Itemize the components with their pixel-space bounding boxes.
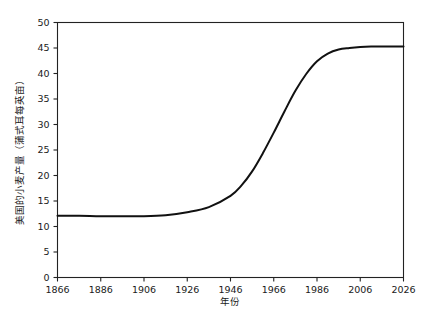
x-tick-label: 1946 [218, 284, 242, 295]
y-tick-label: 15 [37, 195, 49, 206]
y-tick-label: 5 [43, 246, 49, 257]
y-tick-label: 35 [37, 93, 49, 104]
y-tick-label: 30 [37, 119, 49, 130]
y-tick-label: 40 [37, 68, 49, 79]
x-axis-title: 年份 [220, 296, 240, 307]
y-tick-label: 0 [43, 272, 49, 283]
y-tick-label: 45 [37, 42, 49, 53]
x-tick-label: 2026 [391, 284, 415, 295]
y-tick-label: 50 [37, 17, 49, 28]
y-tick-label: 10 [37, 221, 49, 232]
x-tick-label: 2006 [348, 284, 372, 295]
x-tick-label: 1906 [132, 284, 156, 295]
x-tick-label: 1986 [305, 284, 329, 295]
wheat-yield-line-chart: 05101520253035404550 1866188619061926194… [0, 0, 428, 327]
y-tick-label: 20 [37, 170, 49, 181]
x-axis-tick-labels: 186618861906192619461966198620062026 [45, 284, 415, 295]
y-tick-label: 25 [37, 144, 49, 155]
x-tick-label: 1926 [175, 284, 199, 295]
chart-container: 05101520253035404550 1866188619061926194… [0, 0, 428, 327]
y-axis-title: 美国的小麦产量（蒲式耳每英亩） [14, 75, 25, 225]
x-tick-label: 1966 [262, 284, 286, 295]
x-tick-label: 1866 [45, 284, 69, 295]
x-tick-label: 1886 [89, 284, 113, 295]
